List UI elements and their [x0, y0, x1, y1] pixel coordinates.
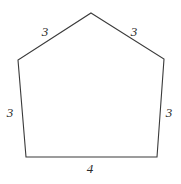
side-label-top-left: 3: [42, 25, 49, 38]
side-label-top-right: 3: [131, 25, 138, 38]
side-label-bottom: 4: [87, 162, 94, 175]
side-label-right: 3: [166, 106, 173, 119]
pentagon-drawing: [0, 0, 181, 184]
side-label-left: 3: [7, 106, 14, 119]
geometry-figure: 3 3 3 3 4: [0, 0, 181, 184]
figure-background: [0, 0, 181, 184]
